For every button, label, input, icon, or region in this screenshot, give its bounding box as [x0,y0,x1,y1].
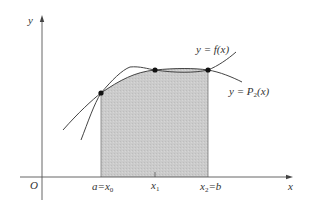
node-point-x1 [152,67,157,72]
y-axis-arrow-icon [40,15,44,22]
curve-p2-label: y = P2(x) [229,86,269,99]
node-label-x0-sub: 0 [110,186,114,194]
curve-p2-label-main: P [247,85,254,97]
node-label-x2-suffix: =b [208,180,221,192]
node-point-x2 [205,67,210,72]
y-axis-label: y [28,15,33,26]
curve-f-label-main: f(x) [214,43,229,55]
curve-f-label: y = f(x) [196,44,229,55]
node-label-x0: a=x0 [92,181,113,194]
node-label-x1: x1 [151,180,159,193]
node-label-x2: x2=b [200,181,221,194]
x-axis-label: x [288,181,293,192]
curve-p2-label-suffix: (x) [257,85,269,97]
curve-p2-label-prefix: y = [229,85,247,97]
node-label-x1-sub: 1 [156,185,160,193]
x-axis-arrow-icon [286,175,293,179]
curve-f-label-prefix: y = [196,43,214,55]
node-label-x0-main: a=x [92,180,110,192]
node-point-x0 [98,90,103,95]
origin-label: O [30,180,38,191]
shaded-area-under-p2 [101,69,208,178]
